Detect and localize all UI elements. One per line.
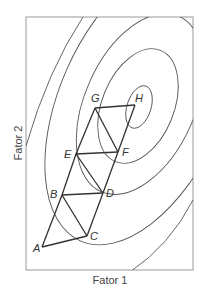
contour-5 <box>26 17 83 146</box>
simplex-edges <box>42 105 135 247</box>
simplex-contour-diagram: A B C D E F G H Fator 1 Fator 2 <box>0 0 204 296</box>
contour-4 <box>5 0 204 274</box>
response-contours <box>5 0 204 274</box>
label-F: F <box>122 146 130 158</box>
label-E: E <box>64 148 72 160</box>
label-H: H <box>135 92 143 104</box>
diagram-canvas: A B C D E F G H <box>0 0 204 296</box>
label-A: A <box>32 242 40 254</box>
label-D: D <box>106 187 114 199</box>
contour-1 <box>121 82 157 131</box>
contour-6 <box>130 200 193 272</box>
y-axis-label: Fator 2 <box>12 126 24 161</box>
contour-2 <box>82 37 194 175</box>
label-B: B <box>50 188 57 200</box>
label-G: G <box>91 92 100 104</box>
x-axis-label: Fator 1 <box>93 274 128 286</box>
label-C: C <box>90 230 98 242</box>
